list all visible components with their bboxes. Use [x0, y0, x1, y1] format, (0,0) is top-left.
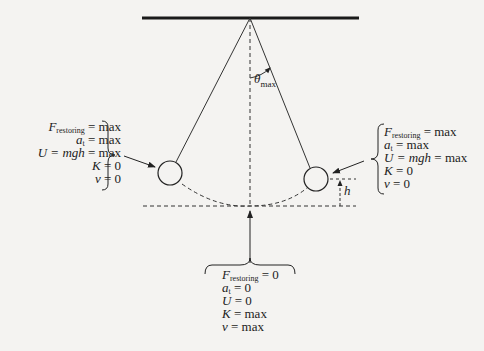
right-extreme-equations: Frestoring = max at = max U = mgh = max … — [384, 125, 467, 190]
theta-max-label: θmax — [254, 71, 276, 89]
left-string — [176, 18, 250, 162]
equilibrium-equations: Frestoring = 0 at = 0 U = 0 K = max v = … — [222, 268, 279, 333]
right-bob — [304, 167, 328, 191]
left-bob — [158, 161, 182, 185]
equation-line: v = max — [222, 320, 279, 333]
right-brace — [371, 124, 384, 194]
equation-line: v = 0 — [38, 172, 121, 185]
left-pointer-arrow — [124, 156, 155, 167]
right-pointer-arrow — [333, 161, 364, 173]
swing-path — [182, 184, 307, 206]
equation-line: v = 0 — [384, 177, 467, 190]
height-label: h — [344, 183, 351, 199]
left-extreme-equations: Frestoring = max at = max U = mgh = max … — [38, 120, 121, 185]
right-string — [250, 18, 310, 168]
